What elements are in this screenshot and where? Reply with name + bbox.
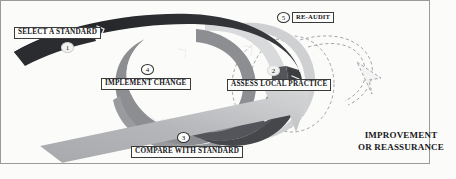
step-label-select-a-standard: SELECT A STANDARD <box>14 27 101 39</box>
step-number-4: 4 <box>141 64 154 75</box>
step-label-re-audit: RE-AUDIT <box>292 12 334 23</box>
step-number-2: 2 <box>267 65 280 76</box>
outcome-line-2: OR REASSURANCE <box>349 142 453 154</box>
outcome-caption: IMPROVEMENT OR REASSURANCE <box>349 130 453 153</box>
step-label-assess-local-practice: ASSESS LOCAL PRACTICE <box>227 79 331 91</box>
audit-cycle-figure: SELECT A STANDARD 1 ASSESS LOCAL PRACTIC… <box>0 0 456 179</box>
outcome-line-1: IMPROVEMENT <box>349 130 453 142</box>
step-label-implement-change: IMPLEMENT CHANGE <box>101 78 191 90</box>
step-number-1: 1 <box>61 42 74 53</box>
step-number-5: 5 <box>277 12 290 23</box>
step-number-3: 3 <box>177 132 190 143</box>
step-label-compare-with-standard: COMPARE WITH STANDARD <box>131 146 243 158</box>
